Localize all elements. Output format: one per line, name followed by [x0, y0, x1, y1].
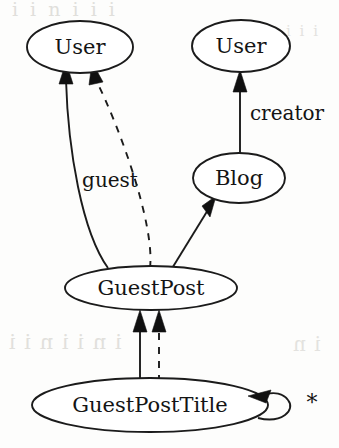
- node-label-blog: Blog: [215, 166, 263, 190]
- node-user-left[interactable]: User: [27, 21, 133, 73]
- edge-label-creator: creator: [250, 101, 325, 125]
- edge-blog-to-user-creator: creator: [233, 70, 325, 153]
- multiplicity-label-star: *: [307, 390, 318, 415]
- node-label-user-right: User: [216, 34, 268, 58]
- node-label-guestpost: GuestPost: [97, 276, 205, 300]
- node-label-guestposttitle: GuestPostTitle: [72, 393, 227, 417]
- node-guestpost[interactable]: GuestPost: [65, 266, 237, 310]
- edge-label-guest: guest: [82, 168, 138, 192]
- node-guestposttitle[interactable]: GuestPostTitle: [32, 378, 268, 432]
- edge-guestpost-to-user-guest: guest: [59, 62, 138, 268]
- arrowhead-creator: [233, 70, 247, 92]
- edge-title-to-guestpost-solid: [133, 310, 147, 382]
- diagram-graph: guest creator User: [0, 0, 339, 448]
- edge-guestpost-to-user-dashed: [89, 62, 150, 268]
- edge-title-to-guestpost-dashed: [152, 310, 166, 382]
- arrowhead-title-solid: [133, 310, 147, 332]
- arrowhead-title-dashed: [152, 310, 166, 332]
- diagram-canvas: i i n i i i i i i i n i i n i i i n gues…: [0, 0, 339, 448]
- node-user-right[interactable]: User: [192, 20, 290, 72]
- edge-line-guestpost-blog: [171, 205, 211, 270]
- node-blog[interactable]: Blog: [193, 153, 285, 203]
- edge-guestpost-to-blog: [171, 196, 216, 270]
- node-label-user-left: User: [55, 35, 107, 59]
